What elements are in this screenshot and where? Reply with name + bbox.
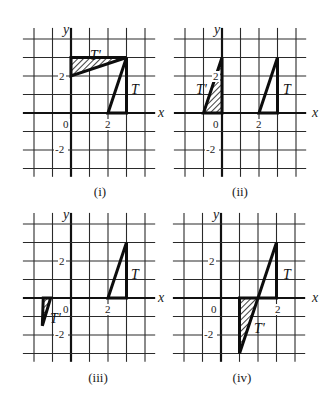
triangle-t-prime-label: T' bbox=[196, 82, 208, 97]
triangle-t-prime: T' bbox=[71, 48, 127, 76]
tick-label-y: 2 bbox=[59, 255, 65, 267]
panel-caption: (iii) bbox=[88, 370, 108, 385]
tick-label-y: -2 bbox=[204, 328, 213, 340]
panel-i: TT'022-2xy(i) bbox=[23, 22, 165, 199]
triangle-t: T bbox=[258, 243, 292, 299]
triangle-t-outline bbox=[108, 58, 127, 114]
triangle-t: T bbox=[108, 58, 140, 114]
panel-iii: TT'022-2xy(iii) bbox=[23, 207, 165, 385]
triangle-t-outline bbox=[259, 58, 278, 114]
tick-label-y: 2 bbox=[213, 70, 219, 82]
tick-label-y: -2 bbox=[55, 328, 64, 340]
triangle-t-prime-label: T' bbox=[90, 48, 102, 63]
tick-label-origin: 0 bbox=[213, 118, 219, 130]
tick-label-y: -2 bbox=[55, 143, 64, 155]
triangle-t-label: T bbox=[131, 82, 140, 97]
tick-label-x: 2 bbox=[256, 118, 262, 130]
tick-label-y: -2 bbox=[206, 143, 215, 155]
panel-caption: (i) bbox=[94, 184, 106, 199]
triangle-t-outline bbox=[108, 243, 127, 299]
panel-caption: (iv) bbox=[233, 370, 252, 385]
tick-label-x: 2 bbox=[105, 118, 111, 130]
transformation-figure: TT'022-2xy(i)TT'022-2xy(ii)TT'022-2xy(ii… bbox=[0, 0, 336, 404]
x-axis-label: x bbox=[311, 105, 319, 120]
tick-label-y: 2 bbox=[209, 255, 215, 267]
grid bbox=[23, 213, 155, 362]
triangle-t-label: T bbox=[283, 267, 292, 282]
triangle-t: T bbox=[259, 58, 292, 114]
y-axis-label: y bbox=[61, 22, 70, 37]
triangle-t-prime: T' bbox=[240, 298, 266, 354]
grid bbox=[174, 28, 306, 177]
panel-iv: TT'022-2xy(iv) bbox=[173, 207, 319, 385]
tick-label-origin: 0 bbox=[63, 303, 69, 315]
x-axis-label: x bbox=[157, 105, 165, 120]
x-axis-label: x bbox=[311, 290, 319, 305]
tick-label-y: 2 bbox=[59, 70, 65, 82]
triangle-t-prime: T' bbox=[196, 58, 222, 114]
panels-container: TT'022-2xy(i)TT'022-2xy(ii)TT'022-2xy(ii… bbox=[23, 22, 319, 385]
tick-label-origin: 0 bbox=[211, 303, 217, 315]
triangle-t-label: T bbox=[283, 82, 292, 97]
panel-caption: (ii) bbox=[232, 184, 248, 199]
triangle-t: T bbox=[108, 243, 140, 299]
tick-label-origin: 0 bbox=[63, 118, 69, 130]
triangle-t-prime-label: T' bbox=[254, 321, 266, 336]
panel-ii: TT'022-2xy(ii) bbox=[174, 22, 319, 199]
tick-label-x: 2 bbox=[105, 303, 111, 315]
triangle-t-outline bbox=[258, 243, 277, 299]
tick-label-x: 2 bbox=[275, 303, 281, 315]
x-axis-label: x bbox=[157, 290, 165, 305]
y-axis-label: y bbox=[211, 207, 220, 222]
y-axis-label: y bbox=[61, 207, 70, 222]
triangle-t-prime-label: T' bbox=[50, 311, 62, 326]
triangle-t-label: T bbox=[131, 267, 140, 282]
y-axis-label: y bbox=[212, 22, 221, 37]
